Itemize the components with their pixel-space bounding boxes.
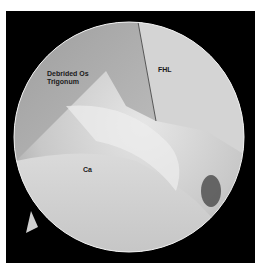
label-calcaneus: Ca xyxy=(83,166,92,174)
label-fhl: FHL xyxy=(158,66,172,74)
dark-shadow xyxy=(201,175,221,207)
label-os-trigonum-line1: Debrided Os xyxy=(47,70,89,78)
image-frame: Debrided Os Trigonum FHL Ca xyxy=(6,11,255,263)
scope-notch xyxy=(26,211,38,233)
label-os-trigonum: Debrided Os Trigonum xyxy=(47,70,89,86)
arthroscopic-view xyxy=(6,11,255,263)
label-os-trigonum-line2: Trigonum xyxy=(47,78,89,86)
